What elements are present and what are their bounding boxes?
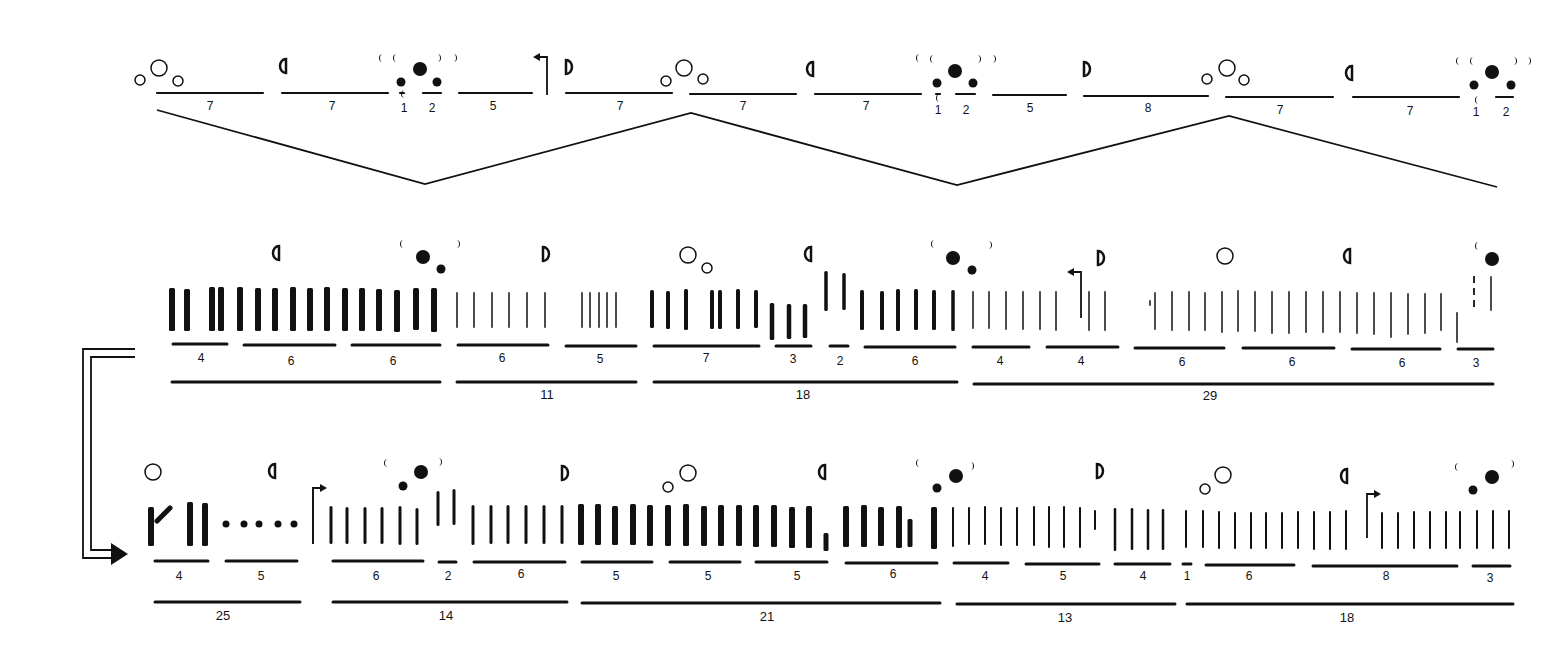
tally-mark [1459, 511, 1461, 549]
tally-mark [346, 507, 349, 544]
new-moon-icon [1485, 470, 1499, 484]
dot-mark [275, 521, 282, 528]
segment-count-label: 3 [790, 352, 797, 366]
segment-count-label: 4 [982, 569, 989, 583]
tally-mark [1000, 507, 1002, 546]
tally-mark [1218, 511, 1220, 549]
new-moon-icon [1485, 252, 1499, 266]
new-moon-icon [946, 251, 960, 265]
tally-mark [1456, 312, 1458, 343]
tally-mark [1390, 292, 1392, 338]
segment-count-label: 6 [890, 567, 897, 581]
segment-count-label: 6 [499, 351, 506, 365]
tally-mark [736, 289, 740, 329]
segment-count-label: 6 [373, 569, 380, 583]
new-moon-icon [933, 79, 942, 88]
tally-mark [1237, 290, 1239, 332]
tally-mark [491, 292, 493, 328]
tally-mark [824, 533, 829, 551]
tally-mark [665, 505, 671, 546]
segment-count-label: 7 [1407, 104, 1414, 118]
tally-mark [860, 290, 864, 330]
tally-mark [753, 505, 759, 547]
tally-mark [1039, 291, 1041, 330]
tally-mark [842, 273, 846, 310]
tally-mark [184, 289, 190, 331]
tally-mark [1204, 292, 1206, 331]
tally-mark [843, 506, 849, 547]
new-moon-icon [437, 265, 446, 274]
tally-mark [1288, 291, 1290, 334]
tally-mark [1147, 509, 1150, 550]
tally-mark [359, 288, 365, 331]
tally-mark [606, 292, 608, 328]
segment-count-label: 4 [198, 351, 205, 365]
tally-mark [878, 507, 884, 546]
tally-mark [324, 287, 330, 331]
tally-mark [710, 290, 714, 329]
tally-mark [473, 292, 475, 328]
group-total-label: 14 [439, 608, 453, 623]
tally-mark [736, 505, 742, 546]
segment-count-label: 8 [1145, 101, 1152, 115]
group-total-label: 11 [540, 387, 554, 402]
tally-mark [1079, 507, 1081, 548]
segment-count-label: 6 [912, 354, 919, 368]
tally-mark [1016, 507, 1018, 546]
tally-mark [666, 291, 670, 329]
segment-count-label: 7 [863, 99, 870, 113]
segment-count-label: 5 [490, 99, 497, 113]
tally-mark [684, 289, 688, 330]
new-moon-icon [969, 79, 978, 88]
tally-mark [364, 507, 367, 544]
segment-count-label: 5 [794, 569, 801, 583]
tally-mark [1339, 291, 1341, 333]
segment-count-label: 2 [1503, 105, 1510, 119]
tally-mark [824, 271, 828, 311]
tally-mark [1445, 511, 1447, 549]
tally-mark [543, 505, 546, 544]
dot-mark [291, 521, 298, 528]
tally-mark [972, 291, 974, 329]
tally-mark [1254, 291, 1256, 332]
tally-mark [1429, 511, 1431, 549]
tally-mark [330, 506, 333, 544]
tally-mark [399, 506, 402, 545]
segment-count-label: 5 [1060, 569, 1067, 583]
tally-mark [1185, 510, 1187, 548]
segment-count-label: 6 [1246, 569, 1253, 583]
segment-count-label: 7 [329, 99, 336, 113]
tally-mark [754, 290, 758, 328]
new-moon-icon [949, 469, 963, 483]
segment-count-label: 2 [837, 354, 844, 368]
segment-count-label: 7 [207, 99, 214, 113]
lunar-notation-diagram: 7712577712587721 466657326446663111829 4… [0, 0, 1558, 647]
tally-mark [1476, 510, 1478, 549]
segment-count-label: 7 [617, 99, 624, 113]
segment-count-label: 5 [1027, 101, 1034, 115]
tally-mark [581, 292, 583, 328]
tally-mark [1162, 509, 1165, 550]
tally-mark [771, 505, 777, 547]
segment-count-label: 7 [740, 99, 747, 113]
new-moon-icon [1470, 81, 1479, 90]
tally-mark [1022, 291, 1024, 330]
tally-mark [416, 508, 419, 545]
segment-count-label: 3 [1473, 356, 1480, 370]
tally-mark [1424, 293, 1426, 334]
segment-count-label: 5 [705, 569, 712, 583]
tally-mark [787, 304, 792, 339]
tally-mark [1297, 511, 1299, 549]
tally-mark [806, 506, 812, 548]
new-moon-icon [414, 465, 428, 479]
segment-count-label: 5 [597, 352, 604, 366]
tally-mark [951, 290, 955, 331]
new-moon-icon [397, 78, 406, 87]
tally-mark [1397, 512, 1399, 549]
segment-count-label: 1 [1184, 569, 1191, 583]
tally-mark [1373, 292, 1375, 335]
tally-mark [1345, 510, 1347, 550]
tally-mark [789, 507, 795, 548]
tally-mark [561, 505, 564, 544]
new-moon-icon [1485, 65, 1499, 79]
